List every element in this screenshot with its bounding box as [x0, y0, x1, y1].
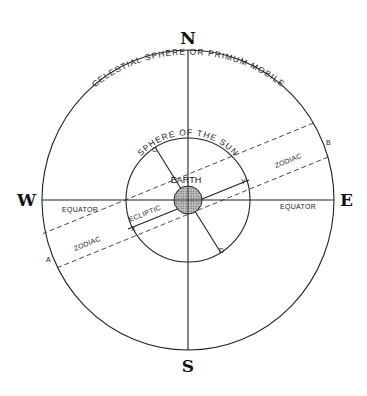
celestial-sphere-diagram: N S W E CELESTIAL SPHERE OR PRIMUM MOBIL… [0, 0, 367, 396]
east-label: E [340, 190, 353, 210]
earth-label: EARTH [171, 175, 201, 185]
zodiac-upper-boundary [20, 104, 360, 243]
point-d-label: D [219, 247, 224, 254]
north-label: N [180, 28, 196, 48]
ecliptic-label: ECLIPTIC [128, 204, 162, 223]
zodiac-label-left: ZODIAC [73, 235, 102, 252]
point-b-label: B [326, 139, 331, 146]
west-label: W [16, 190, 37, 210]
point-y-label: Y [241, 178, 246, 185]
equator-label-right: EQUATOR [280, 203, 316, 211]
south-label: S [182, 356, 194, 376]
point-c-label: C [152, 146, 157, 153]
equator-label-left: EQUATOR [62, 206, 98, 214]
point-x-label: X [131, 225, 136, 232]
point-a-label: A [46, 256, 51, 263]
zodiac-label-right: ZODIAC [274, 152, 303, 169]
